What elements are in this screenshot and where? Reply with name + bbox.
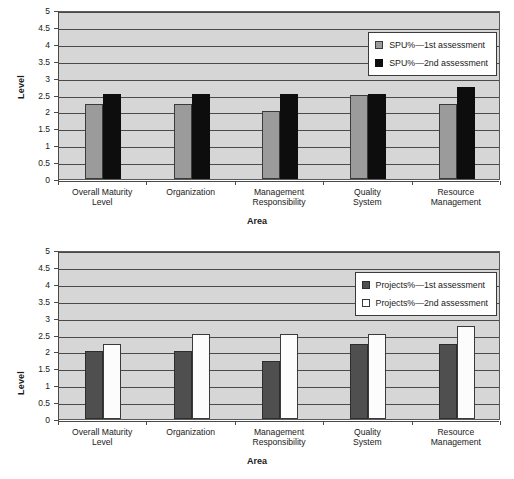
x-axis-category-label: Overall Maturity Level	[58, 187, 146, 207]
y-axis-tick-label: 4.5	[24, 264, 50, 273]
y-axis-tick-mark	[54, 302, 58, 303]
bar	[262, 361, 280, 419]
y-axis-tick-label: 3.5	[24, 58, 50, 67]
y-axis-tick-label: 5	[24, 247, 50, 256]
x-axis-tick-mark	[146, 421, 147, 425]
x-axis-tick-mark	[146, 181, 147, 185]
y-axis-tick-label: 4.5	[24, 24, 50, 33]
y-axis-tick-mark	[54, 336, 58, 337]
y-axis-tick-mark	[54, 352, 58, 353]
y-axis-line	[58, 11, 59, 181]
y-axis-tick-label: 2	[24, 348, 50, 357]
legend-item: SPU%—1st assessment	[375, 38, 488, 52]
y-axis-tick-mark	[54, 79, 58, 80]
legend-item: SPU%—2nd assessment	[375, 56, 488, 70]
x-axis-tick-mark	[235, 181, 236, 185]
y-axis-tick-label: 0	[24, 416, 50, 425]
y-axis-tick-mark	[54, 319, 58, 320]
y-axis-tick-label: 4	[24, 41, 50, 50]
gridline	[59, 12, 499, 13]
legend-label: SPU%—2nd assessment	[389, 59, 488, 68]
bar	[368, 94, 386, 179]
y-axis-tick-label: 2.5	[24, 92, 50, 101]
x-axis-tick-mark	[235, 421, 236, 425]
legend-swatch-icon	[362, 281, 370, 289]
bar	[192, 334, 210, 419]
y-axis-tick-label: 3.5	[24, 298, 50, 307]
y-axis-tick-mark	[54, 403, 58, 404]
x-axis-category-label: Overall Maturity Level	[58, 427, 146, 447]
y-axis-tick-mark	[54, 251, 58, 252]
x-axis-title: Area	[0, 216, 514, 226]
y-axis-tick-mark	[54, 386, 58, 387]
plot-area: Projects%—1st assessmentProjects%—2nd as…	[58, 251, 500, 420]
gridline	[59, 80, 499, 81]
bar	[439, 344, 457, 419]
y-axis-tick-mark	[54, 11, 58, 12]
bar	[350, 344, 368, 419]
y-axis-tick-mark	[54, 62, 58, 63]
y-axis-tick-label: 5	[24, 7, 50, 16]
legend-label: Projects%—1st assessment	[376, 281, 486, 290]
bar	[457, 87, 475, 179]
y-axis-tick-mark	[54, 163, 58, 164]
y-axis-tick-mark	[54, 285, 58, 286]
bar	[350, 95, 368, 179]
bar	[192, 94, 210, 179]
legend-swatch-icon	[375, 59, 383, 67]
x-axis-tick-mark	[412, 181, 413, 185]
legend-swatch-icon	[362, 299, 370, 307]
y-axis-tick-mark	[54, 28, 58, 29]
y-axis-tick-label: 2.5	[24, 332, 50, 341]
gridline	[59, 353, 499, 354]
bar	[103, 344, 121, 419]
y-axis-tick-label: 3	[24, 315, 50, 324]
x-axis-category-label: Organization	[146, 187, 234, 197]
x-axis-category-label: Organization	[146, 427, 234, 437]
y-axis-tick-label: 2	[24, 108, 50, 117]
y-axis-tick-mark	[54, 45, 58, 46]
legend: Projects%—1st assessmentProjects%—2nd as…	[355, 272, 497, 316]
bar	[174, 104, 192, 179]
x-axis-category-label: Management Responsibility	[235, 427, 323, 447]
gridline	[59, 252, 499, 253]
y-axis-tick-mark	[54, 146, 58, 147]
gridline	[59, 181, 499, 182]
x-axis-tick-mark	[323, 181, 324, 185]
bar	[262, 111, 280, 179]
bar	[368, 334, 386, 419]
legend-item: Projects%—1st assessment	[362, 278, 488, 292]
y-axis-tick-label: 3	[24, 75, 50, 84]
bar	[103, 94, 121, 179]
bar	[85, 351, 103, 419]
y-axis-tick-label: 1.5	[24, 125, 50, 134]
y-axis-tick-label: 1	[24, 382, 50, 391]
y-axis-tick-mark	[54, 129, 58, 130]
plot-area: SPU%—1st assessmentSPU%—2nd assessment	[58, 11, 500, 180]
y-axis-title: Level	[16, 371, 26, 395]
x-axis-category-label: Quality System	[323, 427, 411, 447]
gridline	[59, 421, 499, 422]
x-axis-tick-mark	[323, 421, 324, 425]
y-axis-tick-label: 1.5	[24, 365, 50, 374]
x-axis-tick-mark	[500, 421, 501, 425]
y-axis-tick-mark	[54, 112, 58, 113]
bar	[439, 104, 457, 179]
y-axis-tick-label: 0.5	[24, 399, 50, 408]
x-axis-category-label: Management Responsibility	[235, 187, 323, 207]
gridline	[59, 29, 499, 30]
gridline	[59, 97, 499, 98]
y-axis-tick-label: 4	[24, 281, 50, 290]
legend: SPU%—1st assessmentSPU%—2nd assessment	[368, 32, 497, 76]
x-axis-category-label: Resource Management	[412, 187, 500, 207]
bar	[457, 326, 475, 419]
x-axis-title: Area	[0, 456, 514, 466]
x-axis-category-label: Quality System	[323, 187, 411, 207]
y-axis-line	[58, 251, 59, 421]
gridline	[59, 269, 499, 270]
y-axis-tick-mark	[54, 268, 58, 269]
bar	[280, 334, 298, 419]
y-axis-tick-label: 0	[24, 176, 50, 185]
y-axis-title: Level	[16, 75, 26, 99]
y-axis-tick-label: 0.5	[24, 159, 50, 168]
